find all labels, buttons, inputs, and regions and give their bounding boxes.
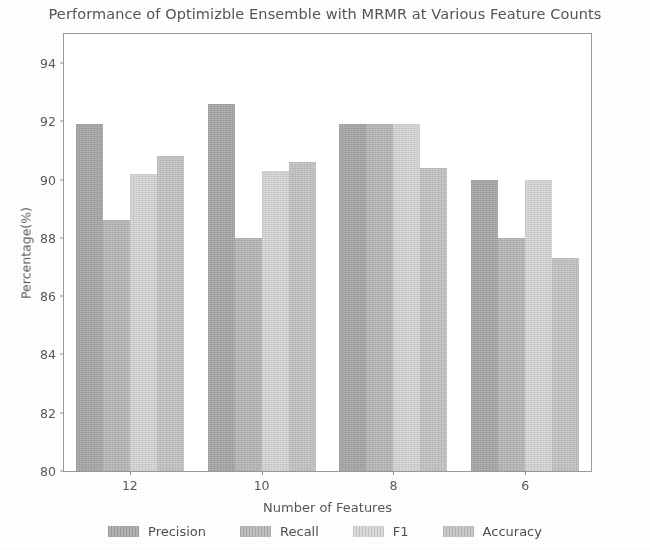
y-axis-tick-mark [60, 354, 64, 355]
bar-accuracy-8 [420, 168, 447, 471]
legend-label: F1 [393, 524, 409, 539]
chart-figure: Performance of Optimizble Ensemble with … [0, 0, 650, 550]
y-axis-label: Percentage(%) [19, 207, 34, 299]
y-axis-tick-mark [60, 471, 64, 472]
legend-label: Precision [148, 524, 206, 539]
y-axis-tick-label: 92 [22, 114, 56, 129]
legend-swatch-icon [108, 526, 139, 537]
y-axis-tick-label: 90 [22, 172, 56, 187]
y-axis-tick-mark [60, 121, 64, 122]
x-axis-tick-label: 8 [389, 478, 397, 493]
legend-item-precision[interactable]: Precision [108, 524, 206, 539]
legend-swatch-icon [240, 526, 271, 537]
y-axis-tick-label: 80 [22, 464, 56, 479]
bar-precision-10 [208, 104, 235, 471]
x-axis-tick-mark [130, 471, 131, 475]
bar-recall-8 [366, 124, 393, 471]
legend-swatch-icon [443, 526, 474, 537]
y-axis-tick-label: 94 [22, 56, 56, 71]
bar-accuracy-12 [157, 156, 184, 471]
bar-recall-6 [498, 238, 525, 471]
x-axis-tick-mark [393, 471, 394, 475]
legend-item-recall[interactable]: Recall [240, 524, 319, 539]
chart-title: Performance of Optimizble Ensemble with … [0, 6, 650, 22]
bar-f1-12 [130, 174, 157, 471]
legend-label: Recall [280, 524, 319, 539]
legend-swatch-icon [353, 526, 384, 537]
y-axis-tick-mark [60, 296, 64, 297]
bar-precision-8 [339, 124, 366, 471]
plot-area: 8082848688909294121086 Percentage(%) [63, 33, 592, 472]
bar-recall-10 [235, 238, 262, 471]
y-axis-tick-mark [60, 179, 64, 180]
plot-inner: 8082848688909294121086 [64, 34, 591, 471]
y-axis-tick-label: 84 [22, 347, 56, 362]
legend-label: Accuracy [483, 524, 542, 539]
x-axis-tick-mark [262, 471, 263, 475]
bar-f1-10 [262, 171, 289, 471]
y-axis-tick-mark [60, 412, 64, 413]
bar-f1-6 [525, 180, 552, 471]
x-axis-tick-label: 6 [521, 478, 529, 493]
x-axis-tick-mark [525, 471, 526, 475]
y-axis-tick-mark [60, 63, 64, 64]
legend-item-accuracy[interactable]: Accuracy [443, 524, 542, 539]
y-axis-tick-label: 82 [22, 405, 56, 420]
bar-precision-12 [76, 124, 103, 471]
x-axis-tick-label: 12 [122, 478, 138, 493]
bar-accuracy-6 [552, 258, 579, 471]
chart-legend: PrecisionRecallF1Accuracy [0, 524, 650, 539]
x-axis-tick-label: 10 [254, 478, 270, 493]
x-axis-label: Number of Features [63, 500, 592, 515]
bar-precision-6 [471, 180, 498, 471]
y-axis-tick-mark [60, 237, 64, 238]
bar-recall-12 [103, 220, 130, 471]
legend-item-f1[interactable]: F1 [353, 524, 409, 539]
bar-f1-8 [393, 124, 420, 471]
bar-accuracy-10 [289, 162, 316, 471]
